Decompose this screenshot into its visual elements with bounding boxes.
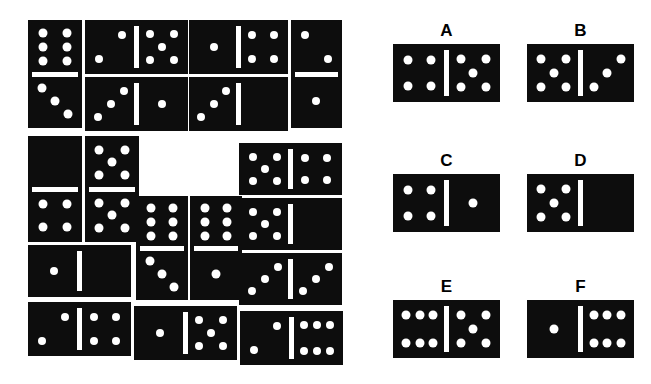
pip (120, 170, 129, 179)
pip (616, 311, 625, 320)
pip (325, 263, 333, 271)
pip (249, 177, 257, 185)
pip (537, 55, 546, 64)
pip (146, 30, 154, 38)
tile-8 (85, 136, 139, 242)
tile-1 (28, 20, 82, 128)
pip-grid (586, 50, 628, 95)
pip (429, 311, 438, 320)
pip (273, 232, 281, 240)
pip (427, 211, 436, 220)
pip (456, 311, 465, 320)
domino-half-second (239, 20, 289, 74)
domino-half-first (393, 44, 447, 102)
domino-half-second (292, 311, 344, 365)
pip (481, 311, 490, 320)
pip-grid (399, 306, 441, 351)
domino-half-second (291, 143, 343, 195)
domino-half-second (447, 44, 501, 102)
pip-grid (399, 180, 441, 225)
pip (324, 55, 332, 63)
domino-divider (288, 204, 293, 245)
pip (404, 211, 413, 220)
pip (404, 81, 413, 90)
pip (223, 217, 232, 226)
domino-divider (194, 246, 238, 251)
domino-half-second (85, 189, 139, 242)
domino-divider (578, 50, 583, 95)
answer-option-label-a: A (393, 22, 500, 39)
pip-grid (85, 251, 125, 292)
domino-divider (578, 180, 583, 225)
domino-half-first (28, 136, 82, 189)
pip (273, 322, 281, 330)
answer-option-a[interactable]: A (393, 22, 500, 102)
pip-grid (34, 26, 76, 68)
tile-6 (291, 20, 342, 128)
tile-5 (189, 77, 288, 131)
pip (562, 82, 571, 91)
pip (223, 231, 232, 240)
domino-divider (140, 246, 184, 251)
answer-option-domino-c (393, 174, 500, 232)
domino-half-second (447, 174, 501, 232)
tile-2 (85, 20, 188, 74)
pip (616, 338, 625, 347)
pip (603, 311, 612, 320)
pip (38, 83, 47, 92)
pip (249, 232, 257, 240)
domino-half-second (291, 74, 342, 128)
answer-option-label-d: D (527, 152, 634, 169)
pip (94, 113, 102, 121)
domino-half-first (28, 302, 80, 356)
pip (299, 287, 307, 295)
pip (249, 153, 257, 161)
pip (222, 87, 230, 95)
pip (616, 55, 625, 64)
domino-half-first (291, 20, 342, 74)
pip (562, 212, 571, 221)
domino-half-first (28, 245, 80, 297)
domino-half-second (581, 300, 635, 358)
pip (249, 208, 257, 216)
domino-half-first (527, 174, 581, 232)
pip (120, 87, 128, 95)
pip (95, 170, 104, 179)
domino-divider (236, 83, 241, 125)
pip (170, 56, 178, 64)
pip (90, 313, 98, 321)
pip (481, 338, 490, 347)
pip (145, 257, 154, 266)
answer-option-e[interactable]: E (393, 278, 500, 358)
pip-grid (34, 251, 74, 292)
answer-option-b[interactable]: B (527, 22, 634, 102)
pip (63, 110, 72, 119)
answer-option-domino-f (527, 300, 634, 358)
domino-half-second (581, 44, 635, 102)
pip-grid (452, 180, 494, 225)
answer-option-c[interactable]: C (393, 152, 500, 232)
pip-grid (142, 83, 182, 125)
pip (301, 154, 309, 162)
tile-15 (28, 302, 131, 356)
domino-divider (134, 83, 139, 125)
pip (95, 146, 104, 155)
pip (197, 113, 205, 121)
pip (537, 212, 546, 221)
pip (589, 82, 598, 91)
pip-grid (452, 306, 494, 351)
tile-13 (28, 245, 131, 297)
pip (200, 217, 209, 226)
pip-grid (91, 26, 131, 68)
pip (62, 223, 71, 232)
answer-option-domino-e (393, 300, 500, 358)
answer-option-d[interactable]: D (527, 152, 634, 232)
pip-grid (297, 317, 337, 359)
pip (169, 231, 178, 240)
pip (95, 199, 104, 208)
pip (170, 282, 179, 291)
answer-option-label-c: C (393, 152, 500, 169)
answer-option-f[interactable]: F (527, 278, 634, 358)
pip-grid (533, 50, 575, 95)
pip (62, 57, 71, 66)
